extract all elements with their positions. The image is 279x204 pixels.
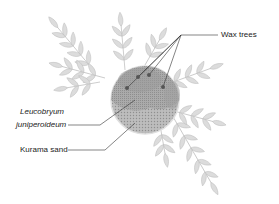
label-kurama-sand: Kurama sand [20,145,68,155]
ground-circle [111,66,180,134]
tree-marker [136,75,140,79]
tree-marker [125,86,129,90]
tree-marker [147,73,151,77]
label-wax-trees: Wax trees [221,30,257,40]
diagram-canvas: Wax trees Leucobryum juniperoideum Kuram… [0,0,279,204]
label-leucobryum-line1: Leucobryum [20,107,64,117]
label-leucobryum-line2: juniperoideum [16,120,66,130]
tree-marker [161,85,165,89]
